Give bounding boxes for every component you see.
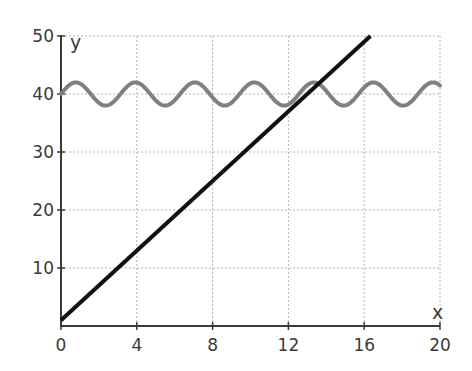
chart: 0481216201020304050 x y xyxy=(0,0,472,371)
x-tick-label: 0 xyxy=(56,335,67,355)
x-tick-label: 20 xyxy=(429,335,451,355)
series xyxy=(61,36,440,320)
y-tick-label: 20 xyxy=(32,200,54,220)
y-axis-label: y xyxy=(70,31,81,53)
x-tick-label: 4 xyxy=(131,335,142,355)
y-tick-label: 30 xyxy=(32,142,54,162)
x-tick-label: 16 xyxy=(353,335,375,355)
tick-labels: 0481216201020304050 xyxy=(32,26,450,355)
x-axis-label: x xyxy=(432,301,443,323)
axes xyxy=(57,35,440,330)
y-tick-label: 50 xyxy=(32,26,54,46)
y-tick-label: 40 xyxy=(32,84,54,104)
y-tick-label: 10 xyxy=(32,258,54,278)
grid-lines xyxy=(61,36,440,326)
x-tick-label: 8 xyxy=(207,335,218,355)
linear-line xyxy=(61,36,370,320)
x-tick-label: 12 xyxy=(278,335,300,355)
